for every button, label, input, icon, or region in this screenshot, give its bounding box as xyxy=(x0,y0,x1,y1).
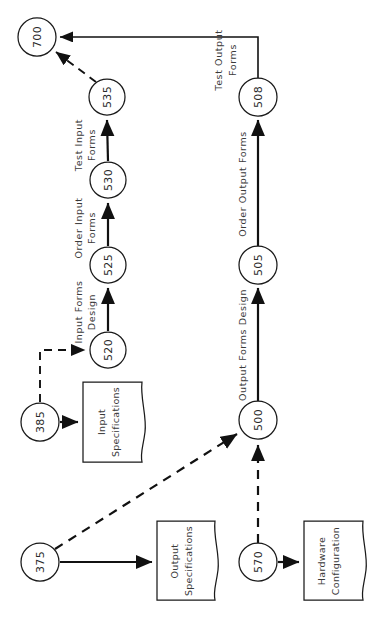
edge-label-line-0: Order Output Forms xyxy=(237,131,248,237)
edge-label-line-1: Forms xyxy=(86,129,97,161)
node-500[interactable]: 500 xyxy=(239,401,277,439)
edge-label-line-0: Test Input xyxy=(73,119,84,172)
edge-label-line-1: Design xyxy=(86,294,97,330)
doc-label-line-1: Specifications xyxy=(183,526,194,596)
node-label: 700 xyxy=(31,26,44,48)
node-535[interactable]: 535 xyxy=(89,79,125,115)
edge-385-to-520 xyxy=(40,350,85,402)
node-570[interactable]: 570 xyxy=(239,543,277,581)
doc-label-line-1: Configuration xyxy=(330,527,341,595)
node-530[interactable]: 530 xyxy=(90,162,126,198)
node-label: 385 xyxy=(34,411,47,433)
edge-label-order-output-forms: Order Output Forms xyxy=(237,131,248,237)
edge-label-test-output-forms: Test Output Forms xyxy=(213,29,238,91)
node-508[interactable]: 508 xyxy=(239,78,277,116)
document-hardware-configuration: Hardware Configuration xyxy=(304,521,366,600)
diagram-canvas: Input Specifications Output Specificatio… xyxy=(0,0,384,631)
edge-label-output-forms-design: Output Forms Design xyxy=(237,289,248,401)
node-label: 500 xyxy=(252,409,265,431)
doc-label-line-1: Specifications xyxy=(110,387,121,457)
document-input-specifications: Input Specifications xyxy=(83,382,145,462)
network-diagram: Input Specifications Output Specificatio… xyxy=(0,0,384,631)
edge-label-input-forms-design: Input Forms Design xyxy=(73,280,97,343)
node-label: 535 xyxy=(101,86,114,108)
node-520[interactable]: 520 xyxy=(90,332,126,368)
document-output-specifications: Output Specifications xyxy=(157,521,218,600)
edge-label-test-input-forms: Test Input Forms xyxy=(73,119,97,172)
node-label: 570 xyxy=(252,551,265,573)
node-label: 525 xyxy=(102,254,115,276)
node-375[interactable]: 375 xyxy=(21,543,59,581)
node-385[interactable]: 385 xyxy=(21,403,59,441)
doc-label-line-0: Hardware xyxy=(316,537,327,585)
node-label: 505 xyxy=(252,254,265,276)
edge-530-to-535 xyxy=(107,120,108,161)
node-700[interactable]: 700 xyxy=(18,18,56,56)
edge-label-line-0: Order Input xyxy=(73,197,84,258)
edge-535-to-700 xyxy=(56,52,96,82)
node-label: 530 xyxy=(102,169,115,191)
doc-label-line-0: Input xyxy=(96,409,107,435)
node-label: 508 xyxy=(252,86,265,108)
edge-label-line-0: Input Forms xyxy=(73,280,84,343)
edge-label-order-input-forms: Order Input Forms xyxy=(73,197,97,258)
node-label: 520 xyxy=(102,339,115,361)
doc-label-line-0: Output xyxy=(169,544,180,579)
edge-label-line-0: Output Forms Design xyxy=(237,289,248,401)
edge-label-line-0: Test Output xyxy=(213,29,224,91)
node-525[interactable]: 525 xyxy=(90,247,126,283)
node-label: 375 xyxy=(34,551,47,573)
edge-label-line-1: Forms xyxy=(86,212,97,244)
edge-label-line-1: Forms xyxy=(227,44,238,76)
node-505[interactable]: 505 xyxy=(239,246,277,284)
